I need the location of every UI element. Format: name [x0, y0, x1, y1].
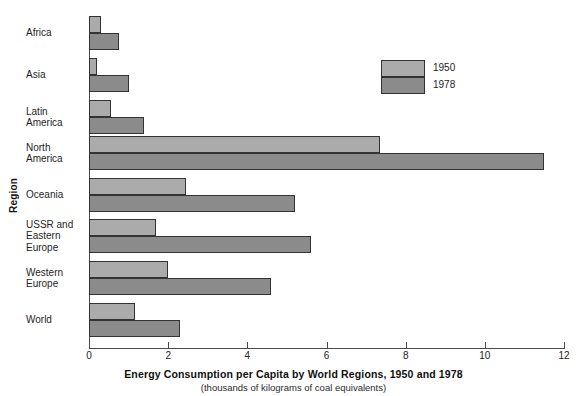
bar-north-america-1950 — [89, 136, 380, 153]
x-tick-label: 2 — [153, 350, 183, 361]
bar-western-europe-1950 — [89, 261, 168, 278]
category-label-asia: Asia — [26, 69, 84, 81]
x-tick-label: 4 — [232, 350, 262, 361]
category-label-line: Europe — [26, 278, 84, 290]
legend-swatch-1978 — [381, 77, 425, 94]
legend-label-1978: 1978 — [433, 79, 455, 90]
x-tick-label: 10 — [470, 350, 500, 361]
category-label-line: Africa — [26, 27, 84, 39]
bar-africa-1978 — [89, 33, 119, 50]
x-tick-label: 8 — [391, 350, 421, 361]
category-label-world: World — [26, 314, 84, 326]
category-label-line: Latin — [26, 106, 84, 118]
category-label-africa: Africa — [26, 27, 84, 39]
bar-oceania-1978 — [89, 195, 295, 212]
x-tick-label: 12 — [549, 350, 579, 361]
category-label-north-america: NorthAmerica — [26, 142, 84, 165]
category-label-line: America — [26, 117, 84, 129]
x-tick-label: 6 — [312, 350, 342, 361]
x-tick-mark — [89, 342, 90, 349]
bar-asia-1950 — [89, 58, 97, 75]
category-label-latin-america: LatinAmerica — [26, 106, 84, 129]
bar-oceania-1950 — [89, 178, 186, 195]
bar-ussr-and-eastern-europe-1950 — [89, 219, 156, 236]
category-label-line: World — [26, 314, 84, 326]
category-label-ussr-and-eastern-europe: USSR andEasternEurope — [26, 219, 84, 254]
bar-world-1978 — [89, 320, 180, 337]
bar-asia-1978 — [89, 75, 129, 92]
chart-caption: Energy Consumption per Capita by World R… — [0, 368, 587, 393]
bar-africa-1950 — [89, 16, 101, 33]
chart-legend: 1950 1978 — [381, 60, 481, 96]
x-tick-mark — [564, 342, 565, 349]
bar-north-america-1978 — [89, 153, 544, 170]
category-label-line: Asia — [26, 69, 84, 81]
caption-title: Energy Consumption per Capita by World R… — [0, 368, 587, 380]
bar-world-1950 — [89, 303, 135, 320]
bar-latin-america-1978 — [89, 117, 144, 134]
chart-figure: Region 024681012 AfricaAsiaLatinAmericaN… — [0, 0, 587, 396]
y-axis-title: Region — [6, 160, 20, 230]
x-tick-mark — [168, 342, 169, 349]
caption-subtitle: (thousands of kilograms of coal equivale… — [0, 382, 587, 393]
category-label-line: Western — [26, 267, 84, 279]
category-label-line: Eastern — [26, 230, 84, 242]
category-label-line: North — [26, 142, 84, 154]
x-tick-mark — [406, 342, 407, 349]
category-label-line: America — [26, 153, 84, 165]
legend-label-1950: 1950 — [433, 62, 455, 73]
category-label-western-europe: WesternEurope — [26, 267, 84, 290]
bar-ussr-and-eastern-europe-1978 — [89, 236, 311, 253]
legend-swatch-1950 — [381, 60, 425, 77]
category-label-oceania: Oceania — [26, 189, 84, 201]
x-tick-mark — [485, 342, 486, 349]
category-label-line: Europe — [26, 242, 84, 254]
category-label-line: USSR and — [26, 219, 84, 231]
category-label-line: Oceania — [26, 189, 84, 201]
bar-western-europe-1978 — [89, 278, 271, 295]
bar-latin-america-1950 — [89, 100, 111, 117]
x-tick-label: 0 — [74, 350, 104, 361]
x-tick-mark — [327, 342, 328, 349]
x-tick-mark — [247, 342, 248, 349]
